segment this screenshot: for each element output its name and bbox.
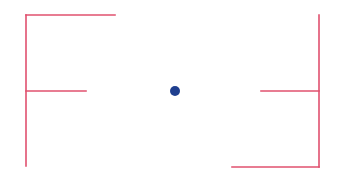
left-bracket (26, 15, 115, 166)
right-bracket (232, 15, 319, 167)
center-dot (170, 86, 180, 96)
diagram-canvas (0, 0, 342, 178)
